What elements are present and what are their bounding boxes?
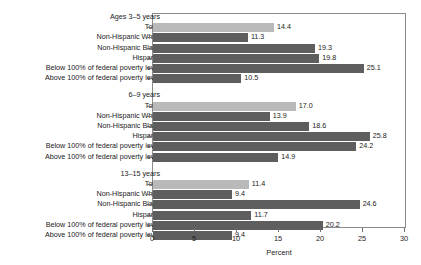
bar-category-label: Below 100% of federal poverty level	[46, 220, 160, 229]
bar-row: Below 100% of federal poverty level24.2	[0, 142, 421, 151]
group-header-row: Ages 3–5 years	[0, 13, 421, 22]
bar	[153, 180, 249, 189]
x-axis-tick	[152, 228, 153, 232]
x-axis-tick	[278, 228, 279, 232]
bar-value-label: 24.2	[359, 141, 373, 150]
bar	[153, 211, 251, 220]
y-axis-tick	[147, 78, 152, 79]
x-axis-tick-label: 20	[316, 234, 324, 243]
x-axis-tick	[404, 228, 405, 232]
bar-value-label: 17.0	[299, 101, 313, 110]
bar-value-label: 25.8	[373, 131, 387, 140]
bar-row: Above 100% of federal poverty level10.5	[0, 74, 421, 83]
x-axis-tick	[362, 228, 363, 232]
x-axis-tick-label: 5	[192, 234, 196, 243]
group-header-row: 6–9 years	[0, 91, 421, 100]
x-axis-tick-label: 30	[400, 234, 408, 243]
bar	[153, 23, 274, 32]
x-axis-tick	[194, 228, 195, 232]
y-axis-tick	[147, 48, 152, 49]
bar	[153, 153, 278, 162]
x-axis-tick	[320, 228, 321, 232]
bar	[153, 122, 309, 131]
bar-value-label: 14.9	[281, 152, 295, 161]
y-axis-tick	[147, 136, 152, 137]
bar	[153, 132, 370, 141]
bar-value-label: 9.4	[235, 189, 245, 198]
bar-row: Hispanic25.8	[0, 132, 421, 141]
bar-value-label: 11.3	[251, 32, 264, 41]
bar-value-label: 19.3	[318, 43, 332, 52]
bar-value-label: 19.8	[322, 53, 336, 62]
bar-row: Non-Hispanic Black24.6	[0, 200, 421, 209]
bar-category-label: Above 100% of federal poverty level	[45, 152, 160, 161]
y-axis-tick	[147, 27, 152, 28]
bar-category-label: Below 100% of federal poverty level	[46, 63, 160, 72]
group-header-row: 13–15 years	[0, 170, 421, 179]
bar-row: Non-Hispanic White9.4	[0, 190, 421, 199]
bar-row: Hispanic19.8	[0, 54, 421, 63]
bar-row: Total14.4	[0, 23, 421, 32]
bar	[153, 112, 270, 121]
bar	[153, 54, 319, 63]
x-axis-tick	[236, 228, 237, 232]
bar-row: Below 100% of federal poverty level25.1	[0, 64, 421, 73]
x-axis-tick-label: 25	[358, 234, 366, 243]
x-axis-tick-label: 0	[150, 234, 154, 243]
bar-value-label: 24.6	[363, 199, 377, 208]
bar-chart: Ages 3–5 yearsTotal14.4Non-Hispanic Whit…	[0, 0, 421, 265]
group-header-label: 6–9 years	[128, 90, 160, 99]
y-axis-tick	[147, 215, 152, 216]
group-header-label: 13–15 years	[120, 169, 160, 178]
bar-value-label: 14.4	[277, 22, 291, 31]
bar-value-label: 13.9	[273, 111, 287, 120]
bar-rows-container: Ages 3–5 yearsTotal14.4Non-Hispanic Whit…	[0, 13, 421, 228]
bar-row: Hispanic11.7	[0, 211, 421, 220]
x-axis-tick-label: 15	[274, 234, 282, 243]
bar-category-label: Above 100% of federal poverty level	[45, 230, 160, 239]
bar	[153, 200, 360, 209]
bar-row: Non-Hispanic Black18.6	[0, 122, 421, 131]
x-axis-tick-label: 10	[232, 234, 240, 243]
bar-row: Total17.0	[0, 102, 421, 111]
bar-category-label: Above 100% of federal poverty level	[45, 73, 160, 82]
bar-row: Total11.4	[0, 180, 421, 189]
bar	[153, 44, 315, 53]
group-header-label: Ages 3–5 years	[110, 12, 160, 21]
bar	[153, 74, 241, 83]
bar-value-label: 18.6	[312, 121, 326, 130]
bar-value-label: 11.7	[254, 210, 267, 219]
y-axis-tick	[147, 68, 152, 69]
bar-category-label: Below 100% of federal poverty level	[46, 141, 160, 150]
x-axis-title: Percent	[152, 248, 406, 257]
bar-row: Non-Hispanic White13.9	[0, 112, 421, 121]
y-axis-tick	[147, 116, 152, 117]
y-axis-tick	[147, 106, 152, 107]
y-axis-tick	[147, 37, 152, 38]
bar	[153, 33, 248, 42]
y-axis-tick	[147, 58, 152, 59]
y-axis-tick	[147, 146, 152, 147]
x-axis: 051015202530	[152, 228, 406, 229]
bar-row: Above 100% of federal poverty level14.9	[0, 153, 421, 162]
y-axis-tick	[147, 126, 152, 127]
bar-row: Non-Hispanic White11.3	[0, 33, 421, 42]
bar	[153, 142, 356, 151]
y-axis-tick	[147, 204, 152, 205]
y-axis-tick	[147, 194, 152, 195]
bar	[153, 64, 364, 73]
bar-row: Non-Hispanic Black19.3	[0, 44, 421, 53]
bar-value-label: 25.1	[367, 63, 381, 72]
y-axis-tick	[147, 184, 152, 185]
y-axis-tick	[147, 225, 152, 226]
y-axis-tick	[147, 157, 152, 158]
bar	[153, 102, 296, 111]
bar-value-label: 11.4	[252, 179, 265, 188]
bar	[153, 190, 232, 199]
bar-value-label: 10.5	[244, 73, 258, 82]
